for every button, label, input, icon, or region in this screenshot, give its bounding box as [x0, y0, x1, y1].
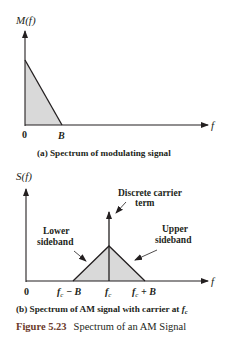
tick-fc: fc: [105, 286, 112, 299]
tick-zero-b: 0: [24, 286, 29, 297]
caption-b: (b) Spectrum of AM signal with carrier a…: [16, 304, 188, 315]
x-axis-label-a: f: [211, 119, 216, 131]
tick-b: B: [57, 130, 65, 141]
tick-zero-a: 0: [22, 129, 27, 140]
carrier-label-line2: term: [135, 198, 155, 208]
carrier-label-line1: Discrete carrier: [118, 188, 183, 198]
y-axis-label-a: M(f): [15, 14, 36, 27]
y-axis-label-b: S(f): [16, 170, 32, 183]
figure-caption-text: Figure 5.23Spectrum of an AM Signal: [16, 321, 186, 332]
am-spectrum-figure: M(f) f 0 B (a) Spectrum of modulating si…: [0, 0, 232, 344]
upper-sideband-label-line2: sideband: [155, 235, 192, 245]
lower-sideband-pointer-arrow: [74, 251, 86, 261]
figure-caption: Figure 5.23Spectrum of an AM Signal: [16, 321, 186, 332]
tick-fc-plus-b: fc + B: [132, 286, 156, 299]
carrier-pointer-arrow: [116, 202, 126, 213]
tick-fc-minus-b: fc − B: [57, 286, 82, 299]
x-axis-label-b: f: [211, 275, 216, 287]
panel-b-am-spectrum: S(f) f 0 fc − B fc fc + B Discrete carri…: [16, 170, 216, 315]
lower-sideband-label-line1: Lower: [43, 226, 70, 236]
caption-a: (a) Spectrum of modulating signal: [37, 148, 171, 158]
upper-sideband-label-line1: Upper: [162, 224, 189, 234]
lower-sideband-label-line2: sideband: [37, 237, 74, 247]
upper-sideband-pointer-arrow: [135, 250, 157, 260]
panel-a-modulating-spectrum: M(f) f 0 B (a) Spectrum of modulating si…: [15, 14, 216, 158]
